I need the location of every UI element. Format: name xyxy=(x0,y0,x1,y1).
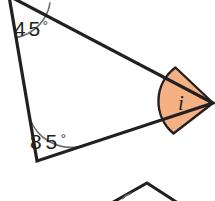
angle-label-45-degree: ° xyxy=(43,18,48,33)
angle-label-unknown-i: i xyxy=(178,91,184,115)
triangle-diagram-canvas: 45° 85° i xyxy=(0,0,215,201)
geometry-figure: 45° 85° i xyxy=(0,0,215,201)
angle-label-85-degree: ° xyxy=(61,131,66,146)
